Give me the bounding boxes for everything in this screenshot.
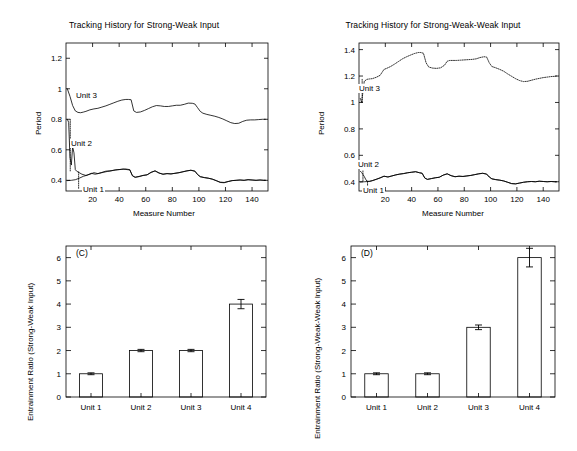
panel-a-unit2-label: Unit 2 xyxy=(70,139,93,148)
bar-unit-4 xyxy=(518,258,541,397)
y-tick-label: 2 xyxy=(342,347,347,356)
y-tick-label: 0.6 xyxy=(344,151,356,160)
y-tick-label: 0 xyxy=(342,393,347,402)
y-tick-label: 0.8 xyxy=(51,115,63,124)
plot-frame xyxy=(359,43,559,191)
y-tick-label: 4 xyxy=(57,300,62,309)
x-tick-label: Unit 3 xyxy=(468,403,489,412)
plot-frame xyxy=(66,43,268,191)
panel-b-title: Tracking History for Strong-Weak-Weak In… xyxy=(289,20,577,30)
x-tick-label: 140 xyxy=(537,195,551,204)
plot-frame xyxy=(66,246,266,397)
y-tick-label: 0.8 xyxy=(344,125,356,134)
panel-b-unit2-label: Unit 2 xyxy=(357,160,380,169)
panel-a-y-axis-label: Period xyxy=(34,112,43,135)
panel-a-unit1-label: Unit 1 xyxy=(82,185,105,194)
panel-b-x-axis-label: Measure Number xyxy=(422,209,484,218)
bar-unit-2 xyxy=(130,351,153,397)
x-tick-label: 80 xyxy=(168,195,177,204)
x-tick-label: Unit 2 xyxy=(131,403,152,412)
y-tick-label: 0.4 xyxy=(51,176,63,185)
y-tick-label: 4 xyxy=(342,300,347,309)
curve-unit-2 xyxy=(67,119,265,182)
x-tick-label: 40 xyxy=(115,195,124,204)
x-tick-label: Unit 1 xyxy=(366,403,387,412)
panel-tracking-strong-weak: Tracking History for Strong-Weak Input P… xyxy=(0,0,288,226)
panel-entrainment-strong-weak-weak: Entrainment Ratio (Strong-Weak-Weak Inpu… xyxy=(289,226,577,451)
x-tick-label: Unit 1 xyxy=(81,403,102,412)
x-tick-label: 20 xyxy=(381,195,390,204)
x-tick-label: 140 xyxy=(245,195,259,204)
panel-b-y-axis-label: Period xyxy=(317,112,326,135)
panel-d-id: (D) xyxy=(361,248,373,258)
y-tick-label: 1.2 xyxy=(51,54,63,63)
y-tick-label: 3 xyxy=(342,323,347,332)
bar-unit-4 xyxy=(230,304,253,397)
curve-unit-3 xyxy=(360,53,556,103)
panel-a-plot: 204060801001201400.40.60.811.2 xyxy=(0,0,288,226)
y-tick-label: 1 xyxy=(342,370,347,379)
panel-tracking-strong-weak-weak: Tracking History for Strong-Weak-Weak In… xyxy=(289,0,577,226)
panel-d-plot: 0123456Unit 1Unit 2Unit 3Unit 4 xyxy=(289,226,577,451)
panel-a-title: Tracking History for Strong-Weak Input xyxy=(0,20,288,30)
y-tick-label: 1.4 xyxy=(344,46,356,55)
x-tick-label: Unit 2 xyxy=(417,403,438,412)
panel-a-unit3-label: Unit 3 xyxy=(75,91,98,100)
x-tick-label: 60 xyxy=(141,195,150,204)
y-tick-label: 2 xyxy=(57,347,62,356)
y-tick-label: 1.2 xyxy=(344,72,356,81)
curve-unit-1 xyxy=(67,169,265,182)
panel-c-y-axis-label: Entrainment Ratio (Strong-Weak Input) xyxy=(26,283,35,421)
x-tick-label: 40 xyxy=(407,195,416,204)
y-tick-label: 6 xyxy=(57,254,62,263)
panel-b-unit3-label: Unit 3 xyxy=(358,84,381,93)
x-tick-label: 20 xyxy=(88,195,97,204)
y-tick-label: 3 xyxy=(57,323,62,332)
bar-unit-3 xyxy=(180,351,203,397)
curve-unit-1 xyxy=(360,172,556,184)
y-tick-label: 6 xyxy=(342,254,347,263)
x-tick-label: 60 xyxy=(433,195,442,204)
y-tick-label: 0.4 xyxy=(344,178,356,187)
x-tick-label: Unit 4 xyxy=(231,403,252,412)
x-tick-label: 100 xyxy=(192,195,206,204)
x-tick-label: 100 xyxy=(484,195,498,204)
y-tick-label: 1 xyxy=(351,98,356,107)
panel-d-y-axis-label: Entrainment Ratio (Strong-Weak-Weak Inpu… xyxy=(313,278,322,439)
x-tick-label: Unit 3 xyxy=(181,403,202,412)
y-tick-label: 0 xyxy=(57,393,62,402)
y-tick-label: 5 xyxy=(57,277,62,286)
panel-c-id: (C) xyxy=(76,248,88,258)
bar-unit-3 xyxy=(467,327,490,397)
x-tick-label: 120 xyxy=(510,195,524,204)
panel-entrainment-strong-weak: Entrainment Ratio (Strong-Weak Input) (C… xyxy=(0,226,288,451)
x-tick-label: Unit 4 xyxy=(519,403,540,412)
y-tick-label: 1 xyxy=(58,85,63,94)
y-tick-label: 5 xyxy=(342,277,347,286)
y-tick-label: 0.6 xyxy=(51,146,63,155)
panel-b-unit1-label: Unit 1 xyxy=(362,186,385,195)
y-tick-label: 1 xyxy=(57,370,62,379)
x-tick-label: 120 xyxy=(219,195,233,204)
x-tick-label: 80 xyxy=(460,195,469,204)
panel-a-x-axis-label: Measure Number xyxy=(133,209,195,218)
plot-frame xyxy=(351,246,555,397)
panel-c-plot: 0123456Unit 1Unit 2Unit 3Unit 4 xyxy=(0,226,288,451)
panel-b-plot: 204060801001201400.40.60.811.21.4 xyxy=(289,0,577,226)
